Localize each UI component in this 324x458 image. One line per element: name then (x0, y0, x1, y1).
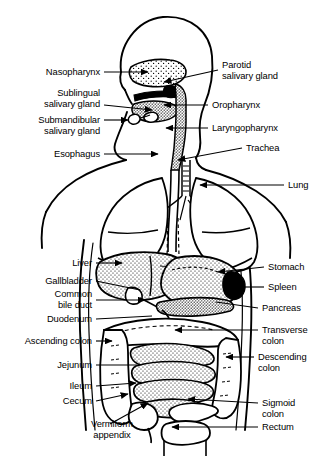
label-descending-colon: Descendingcolon (258, 352, 307, 373)
label-text: Nasopharynx (46, 66, 100, 77)
label-sigmoid-colon: Sigmoidcolon (262, 398, 295, 419)
label-common-bile-duct: Commonbile duct (0, 289, 92, 310)
label-text: Jejunum (57, 359, 92, 370)
label-text-line1: Sublingual (0, 88, 100, 99)
ascending-colon (100, 330, 132, 424)
label-ileum: Ileum (0, 381, 92, 392)
label-rectum: Rectum (262, 422, 294, 433)
label-text-line1: Parotid (222, 60, 278, 71)
label-text-line2: salivary gland (0, 99, 100, 110)
label-text-line1: Descending (258, 352, 307, 363)
label-parotid-salivary-gland: Parotidsalivary gland (222, 60, 278, 81)
label-cecum: Cecum (0, 396, 92, 407)
label-text: Oropharynx (212, 99, 260, 110)
spleen (223, 272, 245, 300)
label-laryngopharynx: Laryngopharynx (212, 123, 278, 134)
label-text: Spleen (268, 281, 297, 292)
label-text-line2: appendix (52, 430, 172, 441)
label-vermiform-appendix: Vermiformappendix (52, 419, 172, 440)
leader-line-trachea (178, 148, 242, 160)
label-text: Gallbladder (45, 275, 92, 286)
label-text: Ileum (70, 380, 92, 391)
pancreas (157, 298, 234, 316)
label-text-line1: Submandibular (0, 115, 100, 126)
label-text-line1: Vermiform (52, 419, 172, 430)
label-pancreas: Pancreas (262, 303, 301, 314)
label-text: Liver (72, 257, 92, 268)
label-text: Pancreas (262, 302, 301, 313)
label-spleen: Spleen (268, 282, 297, 293)
label-transverse-colon: Transversecolon (262, 325, 308, 346)
label-text: Stomach (268, 261, 304, 272)
label-submandibular-salivary-gland: Submandibularsalivary gland (0, 115, 100, 136)
label-text-line2: salivary gland (0, 126, 100, 137)
label-jejunum: Jejunum (0, 360, 92, 371)
label-text-line2: colon (258, 363, 307, 374)
label-text-line2: colon (262, 336, 308, 347)
nasal-cavity (129, 59, 186, 86)
label-text-line1: Common (0, 289, 92, 300)
leader-line-duodenum (96, 316, 152, 319)
label-text: Duodenum (47, 313, 92, 324)
label-trachea: Trachea (246, 143, 279, 154)
label-gallbladder: Gallbladder (0, 276, 92, 287)
descending-colon (212, 338, 241, 418)
label-liver: Liver (0, 258, 92, 269)
label-text-line2: colon (262, 409, 295, 420)
label-text-line2: bile duct (0, 300, 92, 311)
label-text: Rectum (262, 421, 294, 432)
label-sublingual-salivary-gland: Sublingualsalivary gland (0, 88, 100, 109)
label-esophagus: Esophagus (0, 149, 100, 160)
label-text: Ascending colon (25, 335, 92, 346)
label-text-line1: Sigmoid (262, 398, 295, 409)
label-text: Cecum (63, 395, 92, 406)
label-oropharynx: Oropharynx (212, 100, 260, 111)
label-text: Laryngopharynx (212, 122, 278, 133)
label-text: Lung (288, 179, 308, 190)
label-ascending-colon: Ascending colon (0, 336, 92, 347)
label-duodenum: Duodenum (0, 314, 92, 325)
label-text: Esophagus (54, 148, 100, 159)
label-stomach: Stomach (268, 262, 304, 273)
label-nasopharynx: Nasopharynx (0, 67, 100, 78)
label-text: Trachea (246, 142, 279, 153)
digestive-system-figure: NasopharynxSublingualsalivary glandSubma… (0, 0, 324, 458)
label-text-line1: Transverse (262, 325, 308, 336)
label-lung: Lung (288, 180, 308, 191)
label-text-line2: salivary gland (222, 71, 278, 82)
